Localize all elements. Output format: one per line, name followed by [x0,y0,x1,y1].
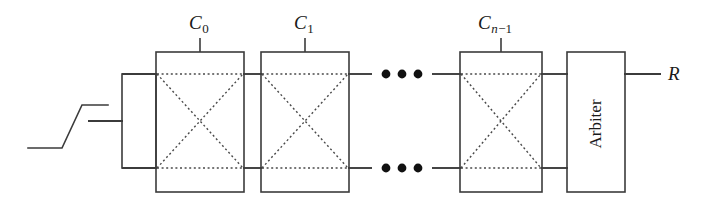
output-label-r: R [668,64,680,83]
c-element-0-label: C0 [189,13,209,35]
c-element-0-block [156,38,244,192]
ellipsis-bottom-icon [382,164,423,173]
ellipsis-top-icon [382,70,423,79]
cn1-subscript-rest: −1 [498,21,512,36]
c-element-n-1-label: Cn−1 [478,13,512,35]
c-element-n-1-block [460,38,542,192]
cn1-subscript-n: n [491,21,498,36]
input-waveform-icon [28,105,108,148]
c-element-1-block [261,38,349,192]
c0-subscript: 0 [202,21,209,36]
input-buffer-block [122,74,156,168]
c1-subscript: 1 [307,21,314,36]
c-element-1-label: C1 [294,13,314,35]
circuit-diagram-figure: C0 C1 Cn−1 R Arbiter [0,0,706,217]
arbiter-label: Arbiter [586,84,606,164]
